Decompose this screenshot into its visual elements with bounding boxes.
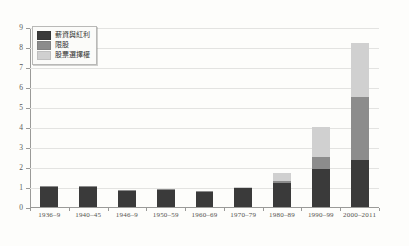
- x-axis-tick-label: 2000–2011: [343, 212, 376, 219]
- chart-legend: 薪資與紅利限股股票選擇權: [32, 26, 97, 65]
- y-axis-tick-label: 9: [19, 24, 23, 32]
- chart-figure: 0123456789 1936–91940–451946–91950–59196…: [0, 0, 409, 246]
- bar-segment: [312, 169, 330, 207]
- bar: [40, 186, 58, 207]
- legend-item: 薪資與紅利: [37, 31, 90, 40]
- x-axis-tick-label: 1950–59: [153, 212, 179, 219]
- y-axis-tick: [26, 28, 30, 29]
- gridline: [30, 68, 379, 69]
- bar-segment: [351, 97, 369, 160]
- y-axis-tick-label: 2: [19, 164, 23, 172]
- bar-segment: [118, 191, 136, 207]
- legend-item-label: 股票選擇權: [55, 52, 90, 59]
- bar: [196, 191, 214, 207]
- legend-item-label: 限股: [55, 42, 69, 49]
- bar-segment: [312, 157, 330, 169]
- y-axis-tick: [26, 48, 30, 49]
- x-axis-tick: [379, 208, 380, 211]
- y-axis-tick-label: 3: [19, 144, 23, 152]
- y-axis-tick: [26, 88, 30, 89]
- bar-segment: [79, 186, 97, 207]
- x-axis-tick: [185, 208, 186, 211]
- bar-segment: [234, 188, 252, 207]
- bar-segment: [40, 186, 58, 187]
- y-axis-tick-label: 6: [19, 84, 23, 92]
- bar-segment: [273, 173, 291, 181]
- bar: [273, 173, 291, 207]
- bar: [351, 43, 369, 207]
- x-axis-tick-label: 1946–9: [116, 212, 138, 219]
- x-axis-tick-label: 1980–89: [269, 212, 295, 219]
- gridline: [30, 108, 379, 109]
- y-axis-tick: [26, 188, 30, 189]
- y-axis-tick: [26, 68, 30, 69]
- bar: [234, 187, 252, 207]
- y-axis-tick: [26, 108, 30, 109]
- x-axis-tick-label: 1970–79: [230, 212, 256, 219]
- y-axis-tick-label: 1: [19, 184, 23, 192]
- bar-segment: [351, 160, 369, 207]
- x-axis-tick: [263, 208, 264, 211]
- y-axis-tick: [26, 128, 30, 129]
- legend-swatch: [37, 31, 51, 40]
- bar: [79, 186, 97, 207]
- legend-item: 限股: [37, 41, 90, 50]
- x-axis-tick: [301, 208, 302, 211]
- x-axis-tick: [30, 208, 31, 211]
- y-axis-tick-label: 4: [19, 124, 23, 132]
- y-axis-tick-label: 7: [19, 64, 23, 72]
- legend-item: 股票選擇權: [37, 51, 90, 60]
- chart-title: [0, 0, 409, 6]
- bar-segment: [273, 181, 291, 183]
- y-axis-tick-label: 0: [19, 204, 23, 212]
- bar-segment: [40, 187, 58, 207]
- legend-swatch: [37, 51, 51, 60]
- bar-segment: [273, 183, 291, 207]
- x-axis: [30, 207, 379, 208]
- legend-item-label: 薪資與紅利: [55, 32, 90, 39]
- bar: [312, 127, 330, 207]
- x-axis-tick-label: 1990–99: [308, 212, 334, 219]
- bar-segment: [312, 127, 330, 157]
- x-axis-tick: [340, 208, 341, 211]
- y-axis-tick: [26, 148, 30, 149]
- legend-swatch: [37, 41, 51, 50]
- gridline: [30, 88, 379, 89]
- bar: [157, 189, 175, 207]
- y-axis: [30, 28, 31, 208]
- bar: [118, 190, 136, 207]
- x-axis-tick: [146, 208, 147, 211]
- bar-segment: [351, 43, 369, 97]
- bar-segment: [196, 191, 214, 207]
- bar-segment: [79, 186, 97, 187]
- x-axis-tick-label: 1960–69: [192, 212, 218, 219]
- y-axis-tick: [26, 168, 30, 169]
- y-axis-tick-label: 8: [19, 44, 23, 52]
- x-axis-tick-label: 1936–9: [38, 212, 60, 219]
- y-axis-tick-label: 5: [19, 104, 23, 112]
- x-axis-tick: [108, 208, 109, 211]
- x-axis-tick: [69, 208, 70, 211]
- x-axis-tick: [224, 208, 225, 211]
- x-axis-tick-label: 1940–45: [75, 212, 101, 219]
- bar-segment: [157, 189, 175, 207]
- bar-segment: [234, 187, 252, 188]
